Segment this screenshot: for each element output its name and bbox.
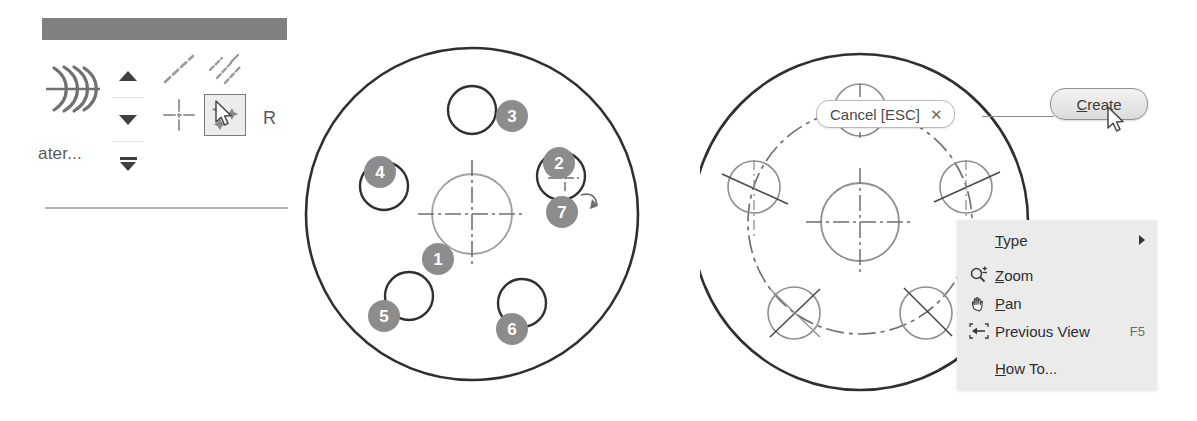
menu-item-pan-label: Pan bbox=[995, 295, 1145, 312]
rotate-arrow-icon bbox=[581, 194, 598, 209]
triangle-up-icon bbox=[119, 71, 137, 81]
callout-badge-7[interactable]: 7 bbox=[546, 196, 578, 228]
menu-icon-placeholder bbox=[967, 231, 991, 249]
menu-separator bbox=[957, 345, 1157, 354]
previous-view-icon bbox=[967, 322, 991, 340]
cancel-button[interactable]: Cancel [ESC] ✕ bbox=[816, 100, 955, 128]
callout-badge-6[interactable]: 6 bbox=[496, 313, 528, 345]
multiple-diagonal-dashes-glyph bbox=[204, 48, 246, 90]
zoom-magnifier-glyph bbox=[969, 266, 989, 284]
preview-center-lines bbox=[806, 168, 914, 276]
toolbar-truncated-label: ater... bbox=[38, 144, 82, 164]
preview-hole-left bbox=[722, 160, 788, 240]
toolbar-bottom-divider bbox=[45, 207, 288, 209]
cancel-button-label: Cancel [ESC] bbox=[830, 106, 920, 123]
create-button-mnemonic: C bbox=[1076, 96, 1087, 113]
create-button-label: reate bbox=[1087, 96, 1121, 113]
close-x-icon[interactable]: ✕ bbox=[930, 107, 943, 122]
menu-item-type[interactable]: Type bbox=[957, 226, 1157, 254]
menu-item-zoom-label: Zoom bbox=[995, 267, 1145, 284]
menu-item-how-to[interactable]: How To... bbox=[957, 354, 1157, 382]
circular-pattern-icon[interactable] bbox=[40, 56, 106, 122]
toolbar-header-bar bbox=[42, 18, 287, 40]
chevron-right-icon bbox=[1139, 235, 1145, 245]
menu-icon-placeholder bbox=[967, 359, 991, 377]
callout-badge-5[interactable]: 5 bbox=[368, 300, 400, 332]
move-to-bottom-button[interactable] bbox=[108, 144, 148, 184]
menu-item-how-to-label: How To... bbox=[995, 360, 1157, 377]
flange-drawing bbox=[296, 28, 648, 400]
flange-diagram-panel: 1 2 3 4 5 6 7 bbox=[296, 28, 648, 400]
menu-item-pan[interactable]: Pan bbox=[957, 289, 1157, 317]
dashed-diagonal-line-glyph bbox=[158, 48, 200, 90]
sketch-points-pattern-glyph bbox=[205, 95, 244, 134]
spinner-divider bbox=[112, 141, 144, 142]
create-button[interactable]: Create bbox=[1050, 88, 1148, 120]
toolbar-panel: ater... bbox=[0, 0, 300, 230]
menu-item-type-label: Type bbox=[995, 232, 1157, 249]
callout-badge-1[interactable]: 1 bbox=[422, 243, 454, 275]
multiple-diagonal-dashes-icon[interactable] bbox=[204, 48, 246, 90]
create-button-group: Create bbox=[1050, 88, 1148, 120]
zoom-magnifier-icon bbox=[967, 266, 991, 284]
pattern-preview-panel: Cancel [ESC] ✕ Create Type bbox=[700, 26, 1197, 411]
preview-hole-bottom-left bbox=[768, 287, 820, 339]
center-mark-crosshair-icon[interactable] bbox=[158, 94, 200, 136]
callout-badge-2[interactable]: 2 bbox=[543, 147, 575, 179]
triangle-down-icon bbox=[119, 115, 137, 125]
menu-item-zoom[interactable]: Zoom bbox=[957, 261, 1157, 289]
callout-badge-3[interactable]: 3 bbox=[496, 100, 528, 132]
menu-item-previous-view-accel: F5 bbox=[1130, 324, 1157, 339]
move-to-bottom-icon bbox=[120, 157, 137, 171]
keyboard-hint-R: R bbox=[263, 108, 276, 129]
menu-spacer bbox=[957, 254, 1157, 261]
dashed-diagonal-line-icon[interactable] bbox=[158, 48, 200, 90]
sketch-points-pattern-icon[interactable] bbox=[204, 94, 246, 136]
menu-item-previous-view-label: Previous View bbox=[995, 323, 1130, 340]
pan-hand-icon bbox=[967, 294, 991, 312]
sketch-tool-icon-grid bbox=[158, 48, 250, 140]
move-up-button[interactable] bbox=[108, 56, 148, 96]
center-mark-crosshair-glyph bbox=[158, 94, 200, 136]
reorder-spinner-group bbox=[108, 56, 148, 186]
callout-badge-4[interactable]: 4 bbox=[364, 156, 396, 188]
spinner-divider bbox=[112, 97, 144, 98]
leader-line bbox=[982, 116, 1054, 117]
context-menu: Type Zoom Pan bbox=[957, 220, 1157, 390]
pan-hand-glyph bbox=[969, 294, 989, 312]
move-down-button[interactable] bbox=[108, 100, 148, 140]
preview-hole-right bbox=[934, 160, 1000, 216]
previous-view-glyph bbox=[968, 322, 990, 340]
menu-item-previous-view[interactable]: Previous View F5 bbox=[957, 317, 1157, 345]
circular-pattern-glyph bbox=[40, 56, 106, 122]
hole-3 bbox=[448, 86, 496, 134]
